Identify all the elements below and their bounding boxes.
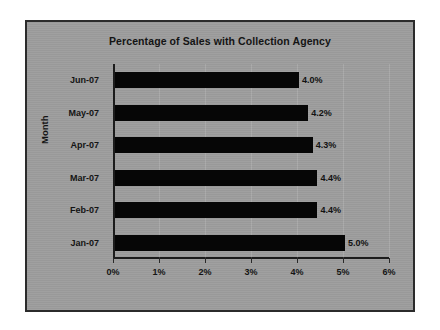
plot-area: Jun-074.0%May-074.2%Apr-074.3%Mar-074.4%… bbox=[113, 64, 389, 259]
gridline bbox=[159, 64, 160, 259]
bar bbox=[115, 72, 299, 88]
bar-row: Jun-074.0% bbox=[115, 72, 391, 88]
bar bbox=[115, 105, 308, 121]
bar-value-label: 5.0% bbox=[345, 238, 369, 248]
gridline bbox=[343, 64, 344, 259]
chart-frame: Percentage of Sales with Collection Agen… bbox=[25, 20, 415, 312]
bar-row: May-074.2% bbox=[115, 105, 391, 121]
bar-value-label: 4.4% bbox=[317, 173, 341, 183]
y-axis-line bbox=[113, 64, 115, 259]
bar bbox=[115, 170, 317, 186]
category-label: Feb-07 bbox=[70, 205, 99, 215]
category-label: Jan-07 bbox=[70, 238, 99, 248]
tick-mark bbox=[251, 258, 252, 263]
gridline bbox=[389, 64, 390, 259]
bar-value-label: 4.0% bbox=[299, 75, 323, 85]
x-tick-label: 1% bbox=[152, 267, 165, 277]
bar bbox=[115, 235, 345, 251]
bar-value-label: 4.3% bbox=[313, 140, 337, 150]
bar bbox=[115, 202, 317, 218]
bar-value-label: 4.2% bbox=[308, 108, 332, 118]
bar bbox=[115, 137, 313, 153]
tick-mark bbox=[113, 258, 114, 263]
y-axis-title: Month bbox=[39, 116, 50, 145]
bar-value-label: 4.4% bbox=[317, 205, 341, 215]
category-label: Apr-07 bbox=[70, 140, 99, 150]
tick-mark bbox=[297, 258, 298, 263]
category-label: Mar-07 bbox=[70, 173, 99, 183]
tick-mark bbox=[159, 258, 160, 263]
tick-mark bbox=[205, 258, 206, 263]
tick-mark bbox=[343, 258, 344, 263]
x-tick-label: 4% bbox=[290, 267, 303, 277]
x-tick-label: 2% bbox=[198, 267, 211, 277]
x-tick-label: 5% bbox=[336, 267, 349, 277]
bar-row: Mar-074.4% bbox=[115, 170, 391, 186]
category-label: May-07 bbox=[68, 108, 99, 118]
x-tick-label: 0% bbox=[106, 267, 119, 277]
bar-row: Jan-075.0% bbox=[115, 235, 391, 251]
category-label: Jun-07 bbox=[70, 75, 99, 85]
x-tick-label: 6% bbox=[382, 267, 395, 277]
bar-row: Apr-074.3% bbox=[115, 137, 391, 153]
chart-title: Percentage of Sales with Collection Agen… bbox=[27, 35, 413, 47]
gridline bbox=[251, 64, 252, 259]
gridline bbox=[297, 64, 298, 259]
x-tick-label: 3% bbox=[244, 267, 257, 277]
bar-row: Feb-074.4% bbox=[115, 202, 391, 218]
tick-mark bbox=[389, 258, 390, 263]
gridline bbox=[205, 64, 206, 259]
